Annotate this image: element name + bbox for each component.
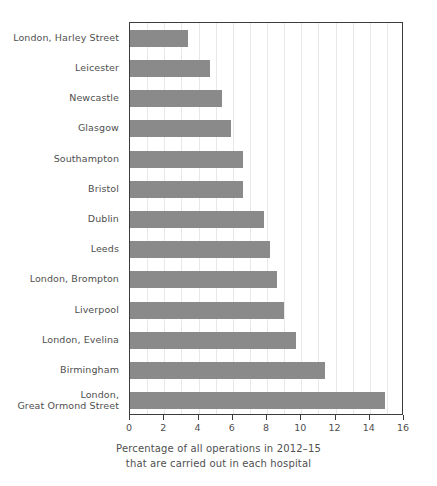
axis-caption: Percentage of all operations in 2012–15 … <box>0 441 437 471</box>
gridline <box>301 23 302 414</box>
bar <box>130 271 277 288</box>
category-label: London, Great Ormond Street <box>0 389 124 411</box>
category-label: Bristol <box>0 183 124 194</box>
x-tick-mark <box>369 415 370 420</box>
x-tick-label: 6 <box>229 422 235 433</box>
category-label: Southampton <box>0 153 124 164</box>
plot-area <box>129 22 403 415</box>
x-tick-mark <box>129 415 130 420</box>
gridline <box>284 23 285 414</box>
x-tick-mark <box>403 415 404 420</box>
bar <box>130 241 270 258</box>
caption-line-2: that are carried out in each hospital <box>0 456 437 471</box>
category-label: Glasgow <box>0 122 124 133</box>
x-tick-label: 2 <box>160 422 166 433</box>
x-tick-label: 4 <box>194 422 200 433</box>
x-tick-mark <box>266 415 267 420</box>
category-label: Newcastle <box>0 92 124 103</box>
bar <box>130 60 210 77</box>
gridline <box>318 23 319 414</box>
bar <box>130 151 243 168</box>
x-tick-label: 16 <box>397 422 409 433</box>
x-tick-label: 12 <box>328 422 340 433</box>
x-tick-label: 10 <box>294 422 306 433</box>
x-tick-mark <box>163 415 164 420</box>
x-tick-mark <box>300 415 301 420</box>
category-label: Leicester <box>0 62 124 73</box>
bar <box>130 90 222 107</box>
gridline <box>387 23 388 414</box>
category-label: Birmingham <box>0 364 124 375</box>
x-tick-label: 8 <box>263 422 269 433</box>
x-tick-mark <box>232 415 233 420</box>
category-axis-labels: London, Harley StreetLeicesterNewcastleG… <box>0 22 124 415</box>
bar <box>130 332 296 349</box>
category-label: London, Harley Street <box>0 32 124 43</box>
category-label: Liverpool <box>0 304 124 315</box>
gridline <box>336 23 337 414</box>
gridline <box>370 23 371 414</box>
category-label: Dublin <box>0 213 124 224</box>
bar <box>130 30 188 47</box>
bar <box>130 362 325 379</box>
x-tick-label: 0 <box>126 422 132 433</box>
bar <box>130 181 243 198</box>
caption-line-1: Percentage of all operations in 2012–15 <box>0 441 437 456</box>
bar <box>130 211 264 228</box>
bar <box>130 392 385 409</box>
x-tick-mark <box>198 415 199 420</box>
x-tick-label: 14 <box>363 422 375 433</box>
category-label: London, Evelina <box>0 334 124 345</box>
bar <box>130 302 284 319</box>
category-label: Leeds <box>0 243 124 254</box>
gridline <box>353 23 354 414</box>
x-tick-mark <box>335 415 336 420</box>
bar <box>130 120 231 137</box>
gridline <box>267 23 268 414</box>
category-label: London, Brompton <box>0 273 124 284</box>
bar-chart-figure: London, Harley StreetLeicesterNewcastleG… <box>0 0 437 486</box>
